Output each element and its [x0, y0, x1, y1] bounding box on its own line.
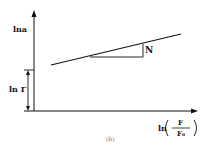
x-label-numerator: F	[178, 119, 183, 126]
diagram-canvas	[0, 0, 205, 154]
figure-caption: (b)	[106, 135, 115, 142]
slope-triangle	[90, 44, 143, 57]
x-axis-arrow-icon	[191, 109, 198, 114]
x-label-denominator: F₀	[177, 130, 185, 137]
y-axis-arrow-icon	[32, 10, 37, 17]
x-label-prefix: ln	[158, 124, 167, 132]
dimension-arrow-up-icon	[26, 70, 30, 75]
slope-label: N	[145, 46, 153, 55]
y-axis-label: lna	[13, 25, 27, 33]
dimension-arrow-down-icon	[26, 106, 30, 111]
x-label-right-paren	[194, 120, 197, 136]
regression-line	[51, 34, 181, 65]
intercept-label: ln Γ	[9, 85, 26, 93]
